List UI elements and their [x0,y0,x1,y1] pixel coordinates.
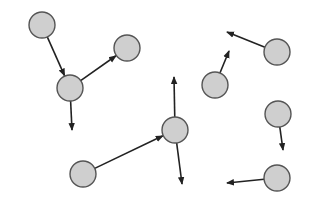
node-n7 [70,161,96,187]
edge-arrow-n1-n2 [47,37,64,76]
vector-arrow-n2-down [71,101,72,130]
node-n9 [264,165,290,191]
node-n6 [162,117,188,143]
node-n4 [264,39,290,65]
vector-arrow-n4-left-up [227,32,265,47]
vector-arrow-n9-left [227,179,264,183]
vector-arrow-n8-down [280,127,283,150]
edge-arrow-n2-n3 [81,56,116,81]
nodes-layer [29,12,291,191]
node-n1 [29,12,55,38]
edge-arrow-n7-n6 [95,136,163,169]
vector-arrow-n6-down-right [177,143,182,184]
node-n3 [114,35,140,61]
vector-arrow-n6-up [174,77,175,117]
node-n5 [202,72,228,98]
vector-arrow-n5-up-right [220,51,229,73]
node-n2 [57,75,83,101]
node-n8 [265,101,291,127]
particle-vector-diagram [0,0,312,202]
